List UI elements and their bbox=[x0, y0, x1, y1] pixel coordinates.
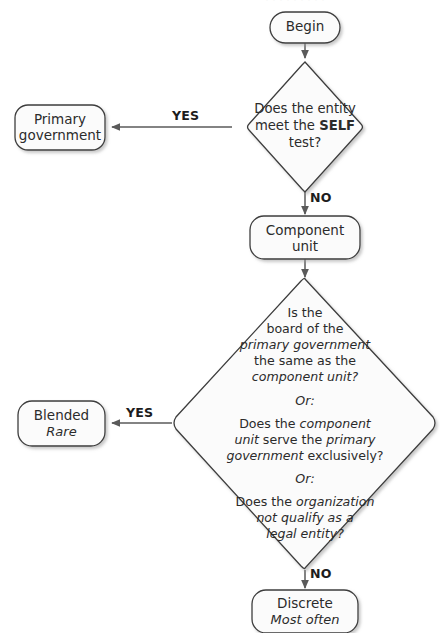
nodes-layer bbox=[15, 12, 435, 633]
node-primary-government[interactable] bbox=[15, 105, 105, 150]
flowchart-canvas bbox=[0, 0, 440, 633]
node-blended[interactable] bbox=[18, 401, 105, 446]
node-begin[interactable] bbox=[270, 12, 340, 43]
node-discrete[interactable] bbox=[252, 590, 358, 633]
node-blended-decision[interactable] bbox=[174, 278, 435, 568]
node-component-unit[interactable] bbox=[250, 216, 360, 259]
node-self-test-decision[interactable] bbox=[248, 62, 363, 192]
